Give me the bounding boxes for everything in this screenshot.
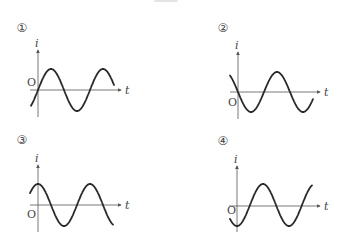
panel-4: ④ i t O: [218, 134, 329, 232]
i-axis-label: i: [235, 39, 239, 52]
option-number-3: ③: [17, 133, 28, 147]
panel-1: ① i t O: [17, 21, 130, 117]
i-axis-label: i: [35, 152, 39, 165]
panel-3: ③ i t O: [17, 133, 130, 232]
origin-label: O: [27, 208, 36, 221]
i-axis-label: i: [35, 37, 39, 50]
origin-label: O: [27, 76, 36, 89]
option-number-1: ①: [17, 21, 28, 35]
origin-label: O: [228, 96, 237, 109]
option-number-2: ②: [218, 21, 229, 35]
figure-canvas: ① i t O ② i t O ③ i t O ④: [0, 0, 337, 236]
option-number-4: ④: [218, 134, 229, 148]
i-axis-label: i: [234, 153, 238, 166]
t-axis-label: t: [125, 84, 130, 97]
sine-wave-curve: [230, 184, 312, 226]
t-axis-label: t: [324, 200, 329, 213]
t-axis-label: t: [125, 199, 130, 212]
t-axis-label: t: [324, 86, 329, 99]
waveform-options-figure: ① i t O ② i t O ③ i t O ④: [0, 0, 337, 236]
cropped-heading-fragment: [154, 0, 178, 2]
panel-2: ② i t O: [218, 21, 329, 119]
origin-label: O: [227, 204, 236, 217]
